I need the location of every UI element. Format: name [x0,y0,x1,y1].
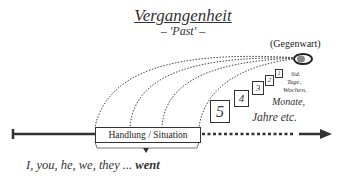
present-label: (Gegenwart) [270,38,321,49]
sentence-subjects: I, you, he, we, they ... [26,158,135,172]
triangle-down-icon [143,148,149,153]
diagram-subtitle: – 'Past' – [118,24,248,39]
example-sentence: I, you, he, we, they ... went [26,158,160,173]
unit-years: Jahre etc. [252,111,297,123]
unit-hours: Std. [291,71,300,77]
time-box-1: 1 [275,69,283,78]
sentence-verb: went [135,158,159,172]
unit-days: Tage, [287,78,301,85]
time-box-4: 4 [234,90,249,107]
unit-months: Monate, [272,96,305,107]
situation-box: Handlung / Situation [95,127,201,143]
arrow-right-icon [320,129,332,139]
time-box-2: 2 [265,75,274,86]
diagram-title: Vergangenheit [118,6,248,26]
unit-weeks: Wochen, [283,86,307,94]
time-box-5: 5 [210,100,230,123]
time-box-3: 3 [252,81,264,95]
